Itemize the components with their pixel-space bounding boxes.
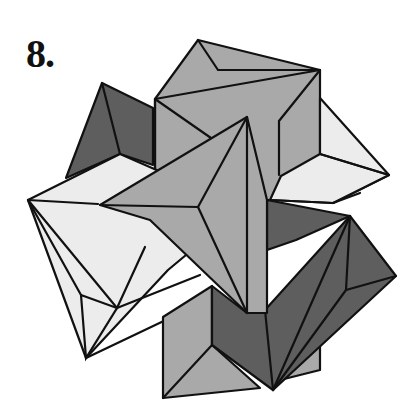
polyhedra-compound-figure: [0, 0, 416, 416]
